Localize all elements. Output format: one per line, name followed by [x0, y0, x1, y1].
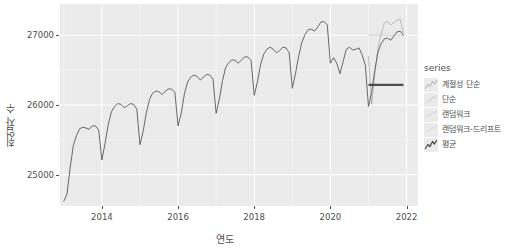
x-tick-label: 2018	[234, 212, 274, 222]
y-tick-label: 25000	[14, 170, 54, 180]
y-tick-mark	[56, 105, 59, 106]
plot-panel	[60, 4, 418, 206]
y-tick-mark	[56, 35, 59, 36]
legend-key-line-icon	[424, 93, 438, 107]
legend-key-line-icon	[424, 108, 438, 122]
legend-item[interactable]: 단순	[424, 92, 508, 107]
x-tick-mark	[407, 206, 408, 209]
x-tick-mark	[330, 206, 331, 209]
legend-items: 계절성 단순단순랜덤워크랜덤워크-드리프트평균	[424, 77, 508, 152]
legend-item-label: 평균	[442, 137, 456, 152]
x-tick-mark	[102, 206, 103, 209]
x-tick-label: 2014	[82, 212, 122, 222]
x-tick-label: 2022	[387, 212, 427, 222]
legend-item[interactable]: 평균	[424, 137, 508, 152]
y-tick-label: 26000	[14, 100, 54, 110]
legend-title: series	[424, 62, 508, 74]
legend-item-label: 랜덤워크-드리프트	[442, 122, 501, 137]
y-tick-mark	[56, 175, 59, 176]
legend-key-line-icon	[424, 138, 438, 152]
legend-key-line-icon	[424, 123, 438, 137]
y-axis-title-text: 취업자 수	[6, 104, 16, 147]
series-lines	[60, 4, 418, 206]
x-tick-label: 2020	[310, 212, 350, 222]
legend-key-line-icon	[424, 78, 438, 92]
legend: series 계절성 단순단순랜덤워크랜덤워크-드리프트평균	[424, 62, 508, 152]
legend-item-label: 랜덤워크	[442, 107, 470, 122]
legend-item[interactable]: 랜덤워크	[424, 107, 508, 122]
y-tick-label: 27000	[14, 30, 54, 40]
legend-item-label: 단순	[442, 92, 456, 107]
x-axis-title: 연도	[30, 232, 420, 248]
observed-line	[64, 21, 404, 201]
legend-item-label: 계절성 단순	[442, 77, 480, 92]
x-tick-mark	[178, 206, 179, 209]
x-tick-label: 2016	[158, 212, 198, 222]
chart-container: 취업자 수 250002600027000 201420162018202020…	[0, 0, 508, 252]
legend-item[interactable]: 랜덤워크-드리프트	[424, 122, 508, 137]
legend-item[interactable]: 계절성 단순	[424, 77, 508, 92]
x-tick-mark	[254, 206, 255, 209]
